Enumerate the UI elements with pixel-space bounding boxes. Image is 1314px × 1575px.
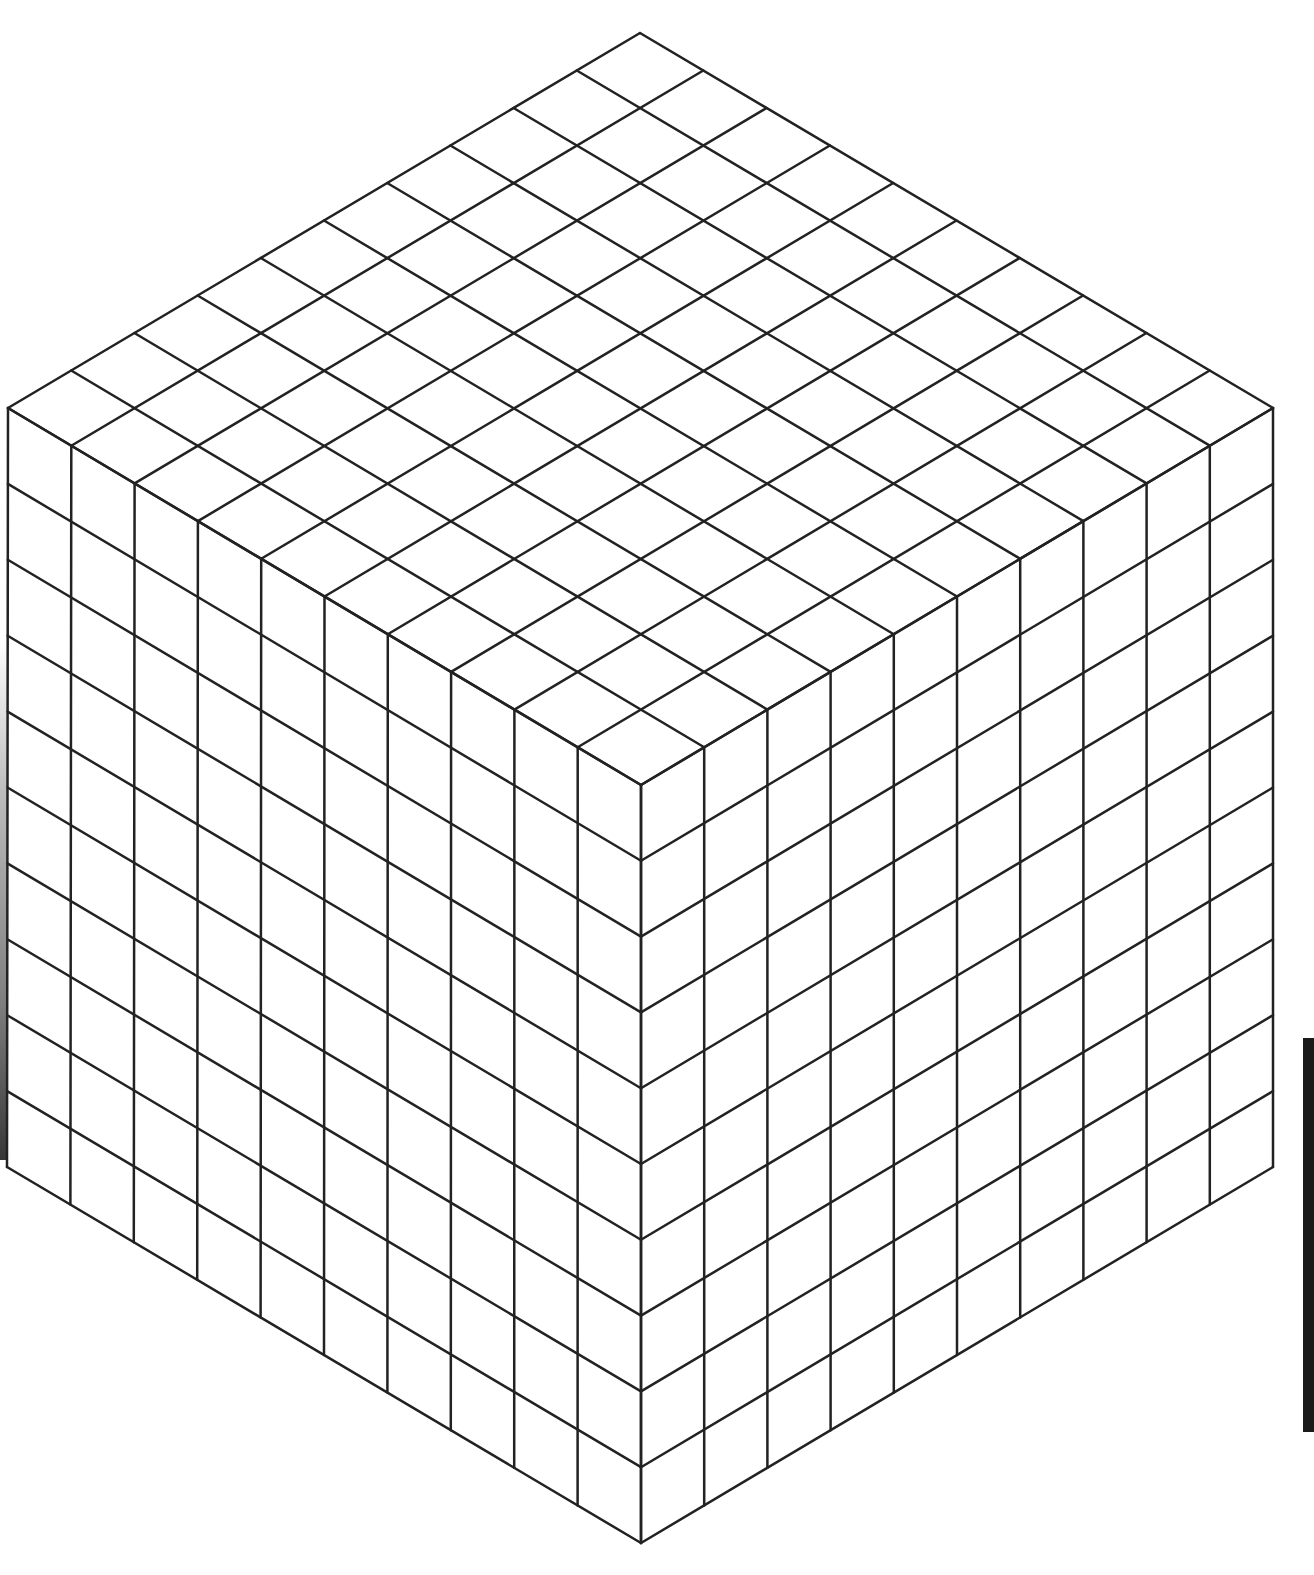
cube-diagram <box>0 0 1314 1575</box>
